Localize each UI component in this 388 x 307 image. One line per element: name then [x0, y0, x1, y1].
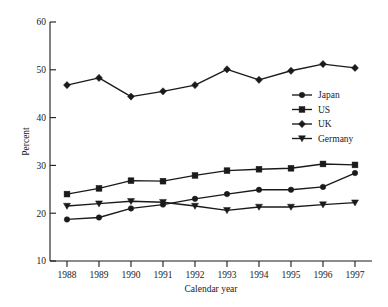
data-point-circle [96, 215, 102, 221]
series-germany [64, 198, 359, 213]
x-tick-label: 1989 [90, 270, 109, 280]
data-point-diamond [64, 81, 71, 88]
data-point-square [288, 165, 294, 171]
data-point-square [128, 178, 134, 184]
data-point-diamond [96, 74, 103, 81]
y-tick-label: 40 [37, 113, 47, 123]
data-point-circle [288, 187, 294, 193]
legend-item-uk[interactable]: UK [292, 119, 332, 129]
line-chart: 1020304050601988198919901991199219931994… [0, 0, 388, 307]
data-point-square [256, 166, 262, 172]
y-tick-label: 30 [37, 161, 47, 171]
legend-label: UK [318, 119, 332, 129]
data-point-diamond [160, 88, 167, 95]
data-point-circle [352, 170, 358, 176]
series-us [64, 161, 358, 197]
data-point-square [160, 178, 166, 184]
x-tick-label: 1990 [122, 270, 141, 280]
data-point-square [352, 162, 358, 168]
data-point-circle [64, 217, 70, 223]
data-point-square [64, 191, 70, 197]
x-tick-label: 1997 [346, 270, 365, 280]
x-tick-label: 1992 [186, 270, 205, 280]
data-point-diamond [299, 120, 306, 127]
series-line [67, 201, 355, 210]
x-tick-label: 1988 [58, 270, 77, 280]
data-point-diamond [352, 64, 359, 71]
legend-label: US [318, 105, 330, 115]
data-point-diamond [256, 76, 263, 83]
y-tick-label: 60 [37, 17, 47, 27]
y-tick-label: 50 [37, 65, 47, 75]
data-point-circle [224, 191, 230, 197]
data-point-square [224, 168, 230, 174]
data-point-square [299, 107, 305, 113]
data-point-diamond [128, 93, 135, 100]
chart-figure: 1020304050601988198919901991199219931994… [0, 0, 388, 307]
series-line [67, 164, 355, 194]
y-axis-title: Percent [21, 127, 31, 156]
legend-item-us[interactable]: US [292, 105, 330, 115]
legend-label: Japan [318, 90, 340, 100]
x-tick-label: 1996 [314, 270, 333, 280]
x-axis-title: Calendar year [184, 284, 238, 294]
data-point-square [192, 173, 198, 179]
axes: 1020304050601988198919901991199219931994… [21, 17, 372, 294]
data-point-circle [320, 184, 326, 190]
x-tick-label: 1993 [218, 270, 237, 280]
series-japan [64, 170, 358, 222]
legend: JapanUSUKGermany [292, 90, 354, 143]
data-point-circle [192, 196, 198, 202]
x-tick-label: 1995 [282, 270, 301, 280]
data-point-diamond [224, 66, 231, 73]
legend-item-japan[interactable]: Japan [292, 90, 340, 100]
legend-item-germany[interactable]: Germany [292, 134, 354, 144]
data-point-circle [256, 187, 262, 193]
x-tick-label: 1991 [154, 270, 173, 280]
data-point-diamond [320, 60, 327, 67]
data-point-diamond [288, 67, 295, 74]
series-uk [64, 60, 359, 100]
legend-label: Germany [318, 134, 354, 144]
y-tick-label: 10 [37, 256, 47, 266]
y-tick-label: 20 [37, 209, 47, 219]
series-line [67, 173, 355, 219]
data-point-circle [299, 92, 305, 98]
data-point-square [96, 185, 102, 191]
data-point-square [320, 161, 326, 167]
x-tick-label: 1994 [250, 270, 269, 280]
data-point-circle [128, 206, 134, 212]
series-line [67, 64, 355, 97]
data-point-diamond [192, 81, 199, 88]
